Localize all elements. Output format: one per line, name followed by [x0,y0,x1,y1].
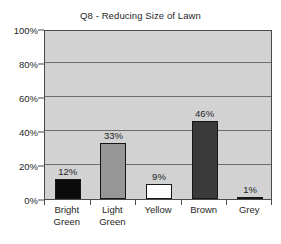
bar-group: 1% [227,31,273,199]
x-axis-category-line: Bright [44,204,90,216]
x-axis-category-line: Grey [226,204,272,216]
bar-group: 12% [45,31,91,199]
bar-value-label: 12% [58,166,77,177]
x-axis-category-label: Brown [181,204,227,216]
bar-value-label: 1% [243,184,257,195]
y-axis-tick-label: 20% [0,161,38,172]
x-axis-category-label: LightGreen [90,204,136,227]
bar-yellow[interactable] [146,184,172,199]
x-axis-labels: BrightGreenLightGreenYellowBrownGrey [44,204,272,244]
bar-light-green[interactable] [100,143,126,199]
y-axis-tick-label: 60% [0,93,38,104]
y-axis-tick-label: 40% [0,127,38,138]
bar-group: 46% [182,31,228,199]
x-axis-category-line: Yellow [135,204,181,216]
x-axis-category-line: Green [44,216,90,228]
x-axis-category-line: Green [90,216,136,228]
bar-value-label: 33% [104,130,123,141]
y-axis-tick-label: 0% [0,195,38,206]
x-axis-category-line: Brown [181,204,227,216]
x-axis-category-label: BrightGreen [44,204,90,227]
y-axis: 0%20%40%60%80%100% [0,30,38,200]
chart-title: Q8 - Reducing Size of Lawn [0,10,281,21]
y-axis-tick-label: 80% [0,59,38,70]
y-axis-tick-label: 100% [0,25,38,36]
bar-bright-green[interactable] [55,179,81,199]
plot-area: 12%33%9%46%1% [44,30,272,200]
bar-grey[interactable] [237,197,263,200]
bar-chart-figure: Q8 - Reducing Size of Lawn 0%20%40%60%80… [0,0,281,244]
x-axis-category-line: Light [90,204,136,216]
bar-value-label: 46% [195,108,214,119]
x-axis-category-label: Yellow [135,204,181,216]
bar-group: 9% [136,31,182,199]
bar-brown[interactable] [192,121,218,199]
bar-group: 33% [91,31,137,199]
x-axis-category-label: Grey [226,204,272,216]
bar-value-label: 9% [152,171,166,182]
